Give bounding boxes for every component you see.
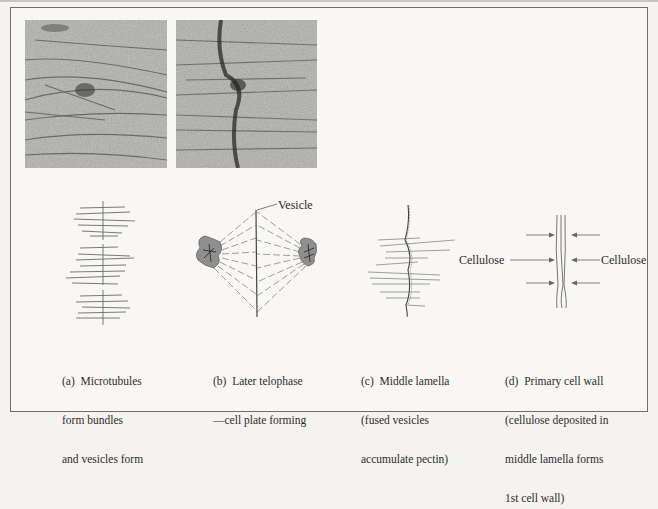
panel-b-drawing (196, 204, 316, 317)
cellulose-label-right: Cellulose (601, 253, 646, 268)
caption-b: (b) Later telophase —cell plate forming (213, 349, 306, 440)
caption-a: (a) Microtubules form bundles and vesicl… (62, 349, 143, 479)
caption-d: (d) Primary cell wall (cellulose deposit… (505, 349, 608, 509)
vesicle-label: Vesicle (278, 198, 313, 213)
arrowheads (549, 233, 577, 286)
panel-d-drawing (510, 215, 600, 308)
panel-c-drawing (368, 205, 455, 316)
panel-a-drawing (66, 201, 135, 325)
caption-c: (c) Middle lamella (fused vesicles accum… (361, 349, 449, 479)
cellulose-label-left: Cellulose (459, 253, 504, 268)
